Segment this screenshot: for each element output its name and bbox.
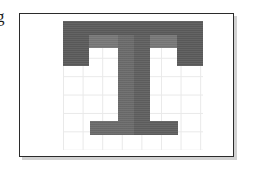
glyph-segment-top-bar [63,21,203,35]
figure-panel [19,13,234,157]
glyph-segment-foot-left [90,121,118,135]
glyph-segment-stem-right [134,35,150,135]
glyph-grid-canvas [63,21,203,150]
glyph-letter-t [63,21,203,150]
edge-clipped-glyph: g [0,7,10,27]
glyph-segment-foot-right [150,121,178,135]
glyph-segment-stem-left [118,35,134,135]
